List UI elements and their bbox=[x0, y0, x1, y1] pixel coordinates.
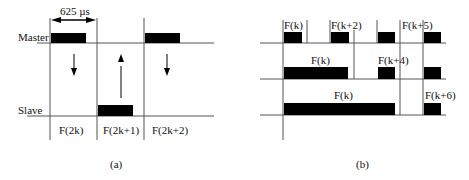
arrowhead-down-icon bbox=[164, 68, 170, 76]
packet bbox=[424, 103, 441, 115]
packet bbox=[284, 67, 348, 79]
packet bbox=[424, 32, 441, 43]
arrowhead-down-icon bbox=[71, 68, 77, 76]
master-packet bbox=[145, 33, 180, 43]
arrowhead-right-icon bbox=[86, 17, 96, 23]
packet bbox=[284, 103, 395, 115]
slot-label: F(2k) bbox=[59, 124, 84, 137]
master-packet bbox=[51, 33, 86, 43]
panel-b: F(k) F(k+2) F(k+5) F(k) F(k+4) F(k) F(k+… bbox=[260, 19, 456, 171]
arrowhead-up-icon bbox=[118, 54, 124, 62]
packet bbox=[378, 67, 395, 79]
slave-label: Slave bbox=[18, 104, 43, 116]
packet bbox=[424, 67, 441, 79]
master-label: Master bbox=[18, 31, 49, 43]
slot-label: F(2k+2) bbox=[152, 124, 188, 137]
slot-label: F(2k+1) bbox=[103, 124, 139, 137]
slot-label: F(k+2) bbox=[331, 19, 362, 32]
slave-packet bbox=[98, 105, 133, 116]
packet bbox=[378, 32, 395, 43]
slot-label: F(k) bbox=[311, 54, 330, 67]
packet bbox=[284, 32, 302, 43]
panel-a: 625 µs Master Slave F(2k) F(2k+1) F(2k+2… bbox=[18, 5, 214, 171]
arrowhead-left-icon bbox=[51, 17, 61, 23]
slot-label: F(k+5) bbox=[402, 19, 433, 32]
slot-label: F(k+6) bbox=[425, 89, 456, 102]
packet bbox=[331, 32, 349, 43]
duration-label: 625 µs bbox=[60, 5, 90, 17]
caption-b: (b) bbox=[356, 158, 369, 171]
slot-label: F(k) bbox=[334, 89, 353, 102]
diagram-canvas: 625 µs Master Slave F(2k) F(2k+1) F(2k+2… bbox=[0, 0, 469, 180]
slot-label: F(k+4) bbox=[378, 54, 409, 67]
slot-label: F(k) bbox=[284, 19, 303, 32]
caption-a: (a) bbox=[110, 158, 123, 171]
